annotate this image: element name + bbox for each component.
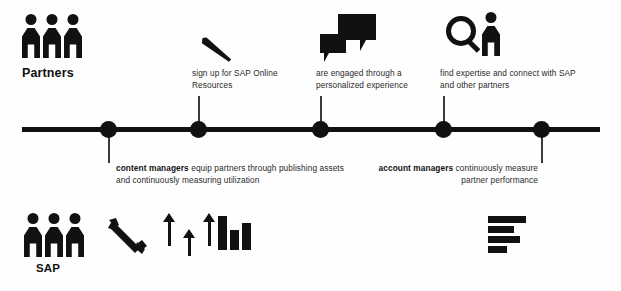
wrench-icon bbox=[106, 216, 148, 256]
caption-find-expertise: find expertise and connect with SAP and … bbox=[440, 68, 586, 91]
sap-lane-label: SAP bbox=[36, 262, 60, 274]
pen-icon bbox=[198, 16, 240, 60]
bar-chart-icon bbox=[218, 216, 252, 250]
wrench-glyph bbox=[106, 216, 148, 256]
caption-content-managers-bold: content managers bbox=[116, 163, 189, 173]
caption-account-managers: account managers continuously measure pa… bbox=[378, 163, 538, 186]
partners-lane-label: Partners bbox=[22, 66, 74, 80]
magnifier-person-icon bbox=[446, 12, 504, 60]
timeline-dot-5[interactable] bbox=[533, 121, 550, 138]
caption-account-managers-rest: continuously measure partner performance bbox=[453, 163, 538, 185]
up-arrows-icon bbox=[158, 212, 220, 260]
partners-people-icon bbox=[22, 14, 82, 58]
timeline-dot-2[interactable] bbox=[190, 121, 207, 138]
timeline-dot-3[interactable] bbox=[312, 121, 329, 138]
caption-sign-up: sign up for SAP Online Resources bbox=[192, 68, 320, 91]
timeline-dot-4[interactable] bbox=[435, 121, 452, 138]
timeline-infographic: Partners sign up for SAP Online Resource… bbox=[0, 0, 621, 291]
caption-content-managers: content managers equip partners through … bbox=[116, 163, 344, 186]
caption-account-managers-bold: account managers bbox=[379, 163, 454, 173]
sap-people-icon bbox=[24, 213, 84, 257]
speech-bubbles-icon bbox=[320, 14, 378, 60]
caption-engaged: are engaged through a personalized exper… bbox=[316, 68, 440, 91]
horizontal-bar-chart-icon bbox=[488, 216, 530, 256]
timeline-dot-1[interactable] bbox=[100, 121, 117, 138]
